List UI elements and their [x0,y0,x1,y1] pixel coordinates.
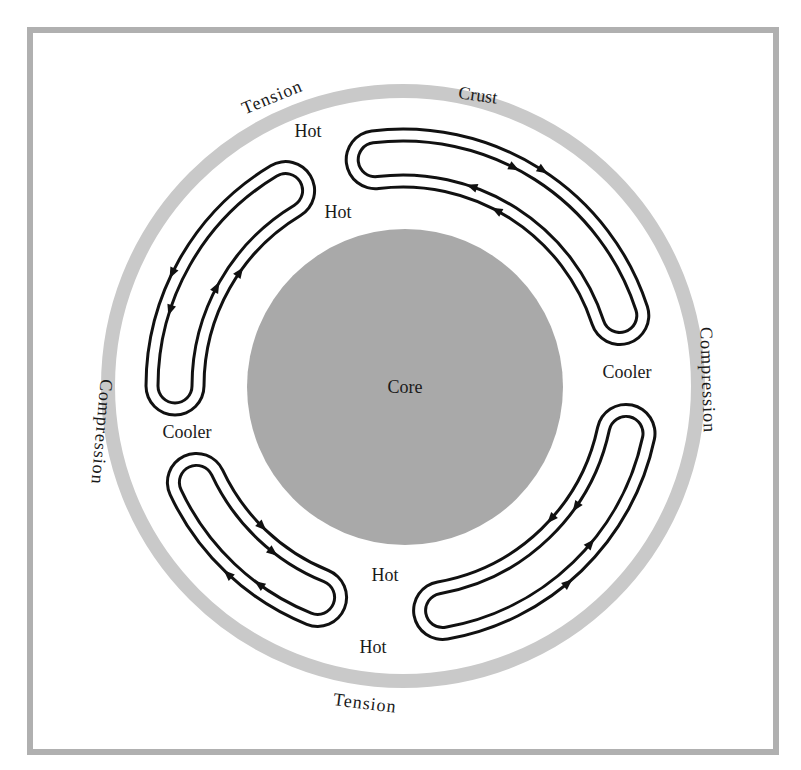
hot-label-bottom-1: Hot [372,565,399,585]
core-label: Core [388,377,423,397]
cooler-label-right: Cooler [603,362,652,382]
convection-diagram: Core Crust Tension Tension Compression C… [0,0,801,770]
compression-left-label: Compression [87,378,116,485]
hot-label-top-1: Hot [295,121,322,141]
compression-right-label: Compression [696,327,720,434]
hot-label-top-2: Hot [325,202,352,222]
hot-label-bottom-2: Hot [360,637,387,657]
cooler-label-left: Cooler [163,422,212,442]
tension-bottom-label: Tension [332,689,398,717]
